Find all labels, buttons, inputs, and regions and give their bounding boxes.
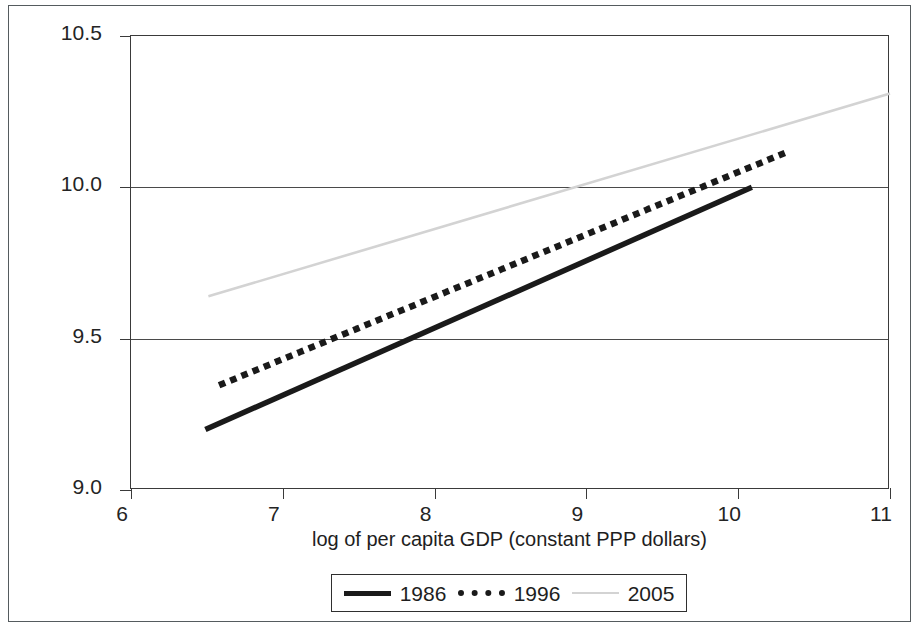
legend-item-1996: 1996 [458, 583, 561, 604]
series-line-2005 [208, 94, 890, 297]
legend: 198619962005 [331, 574, 687, 612]
x-axis-tick-label: 11 [856, 502, 906, 526]
y-axis-tick [120, 339, 131, 340]
x-axis-tick-label: 10 [704, 502, 754, 526]
y-axis-tick-label: 10.5 [61, 21, 102, 45]
x-axis-tick-label: 7 [249, 502, 299, 526]
y-axis-tick-label: 9.5 [73, 324, 103, 348]
series-layer [131, 36, 890, 490]
figure-frame: uphill flows of sophisticated exports lo… [8, 5, 911, 622]
legend-label: 2005 [628, 583, 675, 604]
y-axis-tick [120, 187, 131, 188]
x-axis-label: log of per capita GDP (constant PPP doll… [130, 528, 889, 551]
y-axis-tick-label: 10.0 [61, 172, 102, 196]
legend-label: 1986 [400, 583, 447, 604]
dotted-line-swatch [458, 590, 505, 596]
x-axis-tick-label: 9 [552, 502, 602, 526]
light-line-swatch [572, 592, 619, 594]
solid-line-swatch [344, 591, 391, 596]
chart-page: uphill flows of sophisticated exports lo… [0, 0, 919, 632]
y-axis-tick [120, 36, 131, 37]
y-axis-tick [120, 490, 131, 491]
legend-label: 1996 [514, 583, 561, 604]
series-line-1986 [205, 187, 751, 429]
legend-item-1986: 1986 [344, 583, 447, 604]
x-axis-tick [890, 488, 891, 499]
legend-item-2005: 2005 [572, 583, 675, 604]
plot-area [130, 35, 889, 489]
x-axis-tick-label: 8 [401, 502, 451, 526]
series-line-1996 [222, 154, 782, 384]
x-axis-tick-label: 6 [97, 502, 147, 526]
y-axis-tick-label: 9.0 [73, 475, 103, 499]
